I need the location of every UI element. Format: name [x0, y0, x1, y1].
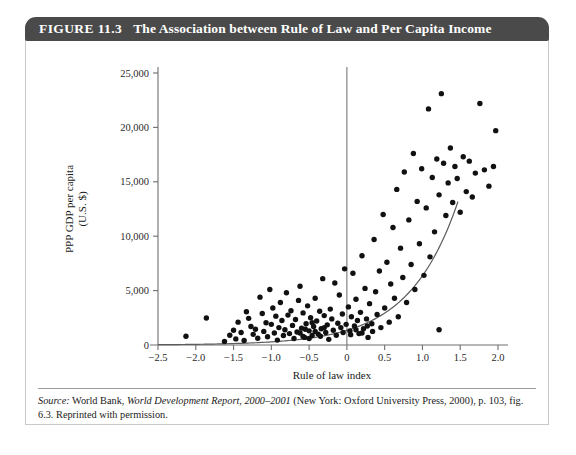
x-tick-label: −2.0	[186, 352, 205, 363]
data-point	[270, 305, 275, 310]
data-point	[406, 217, 411, 222]
source-note: Source: World Bank, World Development Re…	[38, 394, 538, 421]
data-point	[235, 319, 240, 324]
data-point	[443, 213, 448, 218]
x-tick-label: 1.5	[454, 352, 467, 363]
data-point	[398, 245, 403, 250]
data-point	[400, 275, 405, 280]
x-tick-label: −1.5	[224, 352, 243, 363]
data-point	[365, 323, 370, 328]
data-point	[291, 336, 296, 341]
data-point	[382, 305, 387, 310]
data-point	[436, 192, 441, 197]
data-point	[477, 101, 482, 106]
data-point	[452, 164, 457, 169]
data-point	[287, 331, 292, 336]
data-point	[370, 329, 375, 334]
y-tick-label: 10,000	[120, 231, 149, 242]
data-point	[279, 318, 284, 323]
data-point	[348, 332, 353, 337]
data-point	[288, 308, 293, 313]
y-tick-label: 20,000	[120, 122, 149, 133]
data-point	[227, 333, 232, 338]
data-point	[346, 304, 351, 309]
data-point	[432, 229, 437, 234]
data-point	[371, 237, 376, 242]
data-point	[408, 262, 413, 267]
x-tick-label: 2.0	[491, 352, 504, 363]
data-point	[272, 330, 277, 335]
data-point	[300, 334, 305, 339]
data-point	[414, 199, 419, 204]
data-point	[276, 325, 281, 330]
source-publication-title: World Development Report, 2000–2001	[127, 395, 291, 406]
data-point	[278, 300, 283, 305]
data-point	[251, 332, 256, 337]
data-point	[238, 330, 243, 335]
data-point	[448, 145, 453, 150]
data-point	[337, 292, 342, 297]
data-point	[303, 327, 308, 332]
data-point	[353, 297, 358, 302]
data-point	[285, 312, 290, 317]
x-tick-label: 0	[344, 352, 349, 363]
data-point	[493, 128, 498, 133]
data-point	[267, 287, 272, 292]
data-point	[364, 316, 369, 321]
data-point	[430, 175, 435, 180]
data-point	[296, 298, 301, 303]
data-point	[350, 270, 355, 275]
x-tick-label: 1.0	[416, 352, 429, 363]
data-point	[377, 268, 382, 273]
data-point	[426, 106, 431, 111]
data-point	[388, 281, 393, 286]
data-point	[261, 329, 266, 334]
data-point	[340, 311, 345, 316]
source-label: Source:	[38, 395, 70, 406]
data-point	[300, 310, 305, 315]
data-point	[349, 314, 354, 319]
data-point	[269, 322, 274, 327]
data-point	[343, 322, 348, 327]
data-point	[338, 325, 343, 330]
data-point	[373, 289, 378, 294]
data-point	[183, 334, 188, 339]
data-point	[419, 166, 424, 171]
data-point	[326, 337, 331, 342]
data-point	[322, 325, 327, 330]
data-point	[260, 311, 265, 316]
y-axis-title-line2: (U.S. $)	[76, 191, 89, 226]
data-point	[305, 303, 310, 308]
data-point	[470, 194, 475, 199]
data-point	[424, 205, 429, 210]
data-point	[458, 210, 463, 215]
y-axis-title-line1: PPP GDP per capita	[63, 165, 75, 253]
data-point	[332, 280, 337, 285]
data-point	[329, 316, 334, 321]
data-point	[222, 339, 227, 344]
data-point	[387, 319, 392, 324]
data-point	[317, 309, 322, 314]
data-point	[331, 328, 336, 333]
data-point	[359, 330, 364, 335]
data-point	[282, 327, 287, 332]
data-point	[402, 169, 407, 174]
data-point	[253, 327, 258, 332]
data-point	[322, 313, 327, 318]
data-point	[467, 158, 472, 163]
data-point	[248, 324, 253, 329]
data-point	[362, 286, 367, 291]
data-point	[421, 273, 426, 278]
figure-header-bar: FIGURE 11.3 The Association between Rule…	[25, 17, 549, 41]
data-point	[281, 333, 286, 338]
data-point	[427, 254, 432, 259]
source-text-1: World Bank,	[70, 395, 127, 406]
data-point	[255, 336, 260, 341]
data-point	[380, 212, 385, 217]
data-point	[309, 320, 314, 325]
data-point	[390, 225, 395, 230]
data-point	[244, 309, 249, 314]
y-axis-title: PPP GDP per capita(U.S. $)	[63, 165, 89, 253]
data-point	[303, 321, 308, 326]
data-point	[450, 200, 455, 205]
